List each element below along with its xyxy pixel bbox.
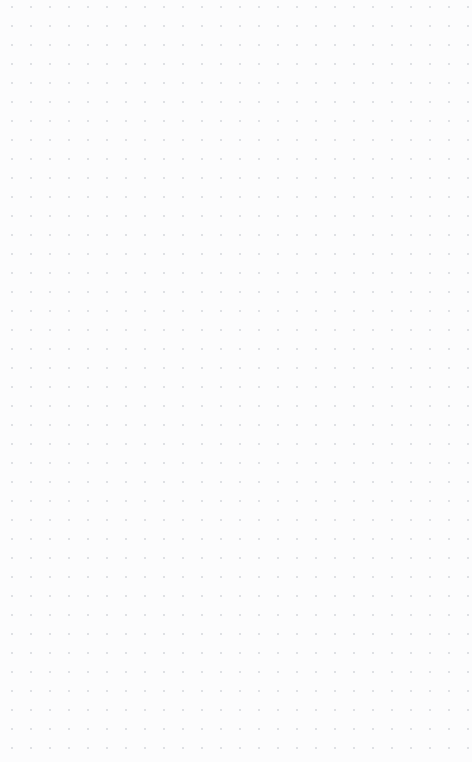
canvas-dot-grid-surface[interactable] xyxy=(0,0,472,762)
canvas-app xyxy=(0,0,472,762)
